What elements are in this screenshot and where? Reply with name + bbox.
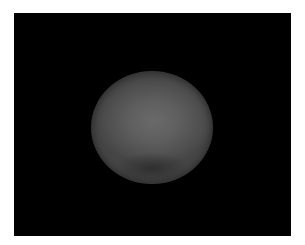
gray-sphere: [91, 71, 213, 184]
sphere-rim-shading: [91, 71, 213, 184]
black-backdrop: [14, 13, 291, 236]
